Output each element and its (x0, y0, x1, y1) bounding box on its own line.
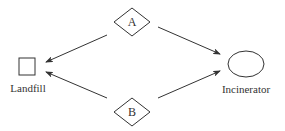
edge-b-to-landfill-arrow-icon (46, 72, 107, 98)
node-incinerator-label: Incinerator (222, 83, 271, 95)
node-incinerator: Incinerator (222, 51, 271, 95)
node-a: A (114, 8, 150, 36)
node-b-label: B (128, 105, 136, 119)
diagram-canvas: A B Landfill Incinerator (0, 0, 285, 131)
edge-b-to-incinerator-arrow-icon (158, 71, 220, 98)
node-landfill-label: Landfill (10, 82, 45, 94)
edge-a-to-landfill-arrow-icon (46, 35, 107, 62)
node-a-label: A (128, 15, 137, 29)
node-landfill: Landfill (10, 58, 45, 94)
ellipse-shape-incinerator (228, 51, 264, 77)
edge-a-to-incinerator-arrow-icon (158, 27, 220, 54)
node-b: B (114, 98, 150, 126)
square-shape-landfill (19, 58, 35, 75)
